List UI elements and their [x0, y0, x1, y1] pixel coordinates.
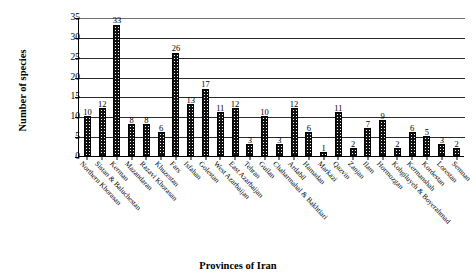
bar-slot: 11 — [331, 17, 346, 156]
bar-value-label: 12 — [98, 100, 107, 109]
bar[interactable]: 5 — [423, 136, 430, 156]
bar[interactable]: 2 — [394, 148, 401, 156]
bar-slot: 2 — [390, 17, 405, 156]
y-tick-mark — [75, 157, 79, 158]
bar-value-label: 6 — [307, 124, 311, 133]
bar-slot: 17 — [198, 17, 213, 156]
bar[interactable]: 7 — [364, 128, 371, 156]
bar-value-label: 13 — [186, 96, 195, 105]
bar-series: 1012338862613171112310312611127926532 — [79, 17, 465, 156]
bar[interactable]: 6 — [305, 132, 312, 156]
plot-area: 05101520253035 1012338862613171112310312… — [78, 18, 464, 157]
bar[interactable]: 2 — [453, 148, 460, 156]
bar[interactable]: 17 — [202, 89, 209, 157]
bar-value-label: 1 — [322, 144, 326, 153]
bar-slot: 2 — [346, 17, 361, 156]
bar-value-label: 12 — [231, 100, 240, 109]
bar[interactable]: 12 — [99, 108, 106, 156]
bar-slot: 8 — [124, 17, 139, 156]
bar-value-label: 2 — [395, 140, 399, 149]
bar-value-label: 33 — [113, 16, 122, 25]
bar-value-label: 6 — [410, 124, 414, 133]
bar-slot: 3 — [434, 17, 449, 156]
bar-value-label: 10 — [260, 108, 269, 117]
bar-slot: 8 — [139, 17, 154, 156]
bar-value-label: 26 — [172, 44, 181, 53]
chart-container: Number of species 05101520253035 1012338… — [0, 0, 476, 278]
bar[interactable]: 12 — [291, 108, 298, 156]
bar-slot: 10 — [80, 17, 95, 156]
bar-value-label: 3 — [248, 136, 252, 145]
bar-slot: 5 — [420, 17, 435, 156]
bar-slot: 2 — [449, 17, 464, 156]
bar-value-label: 10 — [83, 108, 92, 117]
bar-value-label: 17 — [201, 80, 210, 89]
bar-slot: 12 — [95, 17, 110, 156]
bar-slot: 10 — [257, 17, 272, 156]
bar[interactable]: 6 — [158, 132, 165, 156]
x-axis-category-labels: Northern KhorasanSistan & BaluchestanKer… — [78, 160, 464, 256]
bar-slot: 3 — [242, 17, 257, 156]
bar[interactable]: 3 — [246, 144, 253, 156]
bar-value-label: 2 — [454, 140, 458, 149]
bar-value-label: 8 — [144, 116, 148, 125]
bar-value-label: 11 — [334, 104, 342, 113]
bar-value-label: 12 — [290, 100, 299, 109]
bar-value-label: 7 — [366, 120, 370, 129]
bar-slot: 13 — [183, 17, 198, 156]
bar-slot: 33 — [110, 17, 125, 156]
bar-slot: 6 — [405, 17, 420, 156]
y-axis-title: Number of species — [17, 21, 28, 161]
bar[interactable]: 10 — [261, 116, 268, 156]
bar-value-label: 3 — [277, 136, 281, 145]
bar-value-label: 3 — [440, 136, 444, 145]
bar[interactable]: 9 — [379, 120, 386, 156]
bar-slot: 11 — [213, 17, 228, 156]
bar-slot: 3 — [272, 17, 287, 156]
bar-value-label: 9 — [381, 112, 385, 121]
bar-value-label: 11 — [216, 104, 224, 113]
x-axis-title: Provinces of Iran — [0, 260, 476, 271]
bar[interactable]: 33 — [113, 25, 120, 156]
bar-value-label: 6 — [159, 124, 163, 133]
bar[interactable]: 11 — [217, 112, 224, 156]
bar[interactable]: 13 — [187, 104, 194, 156]
bar-slot: 26 — [169, 17, 184, 156]
bar[interactable]: 8 — [143, 124, 150, 156]
bar[interactable]: 11 — [335, 112, 342, 156]
bar[interactable]: 12 — [232, 108, 239, 156]
bar-slot: 1 — [316, 17, 331, 156]
bar-slot: 12 — [228, 17, 243, 156]
bar[interactable]: 8 — [128, 124, 135, 156]
bar-slot: 9 — [375, 17, 390, 156]
bar[interactable]: 26 — [172, 53, 179, 156]
bar-slot: 6 — [301, 17, 316, 156]
bar[interactable]: 3 — [438, 144, 445, 156]
bar-slot: 7 — [361, 17, 376, 156]
bar-slot: 12 — [287, 17, 302, 156]
bar-slot: 6 — [154, 17, 169, 156]
bar-value-label: 5 — [425, 128, 429, 137]
bar[interactable]: 3 — [276, 144, 283, 156]
bar-value-label: 8 — [130, 116, 134, 125]
bar[interactable]: 2 — [350, 148, 357, 156]
bar[interactable]: 10 — [84, 116, 91, 156]
bar-value-label: 2 — [351, 140, 355, 149]
bar[interactable]: 6 — [409, 132, 416, 156]
